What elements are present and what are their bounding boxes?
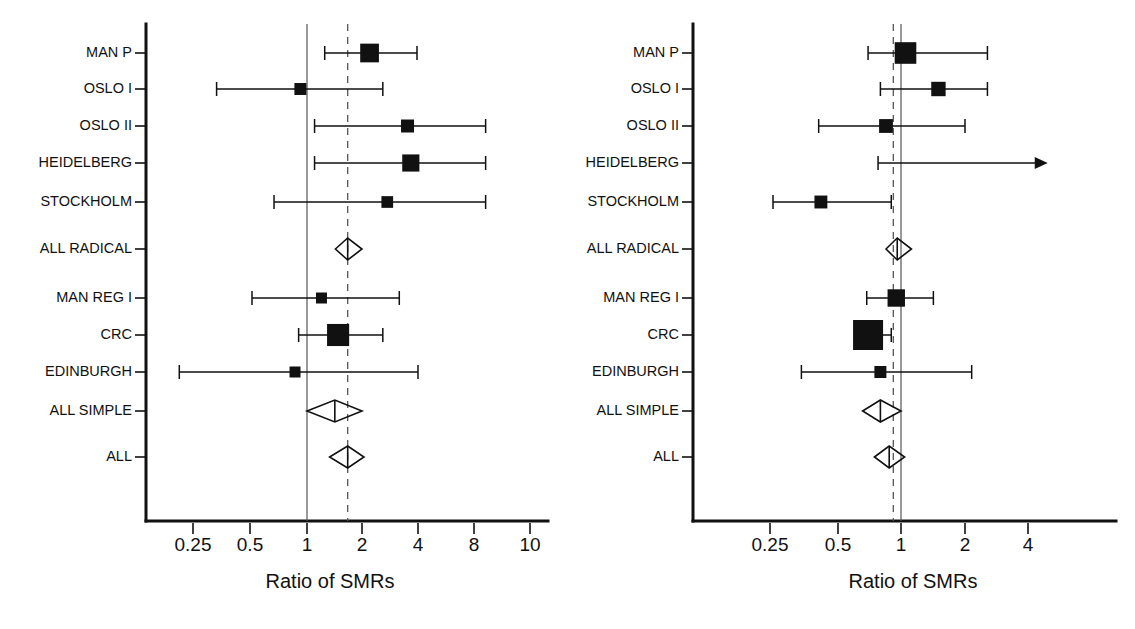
x-axis-tick-label: 10 [519, 534, 540, 555]
arrow-right-icon [1035, 157, 1048, 169]
x-axis-tick-label: 0.5 [825, 534, 851, 555]
effect-estimate-marker [316, 293, 327, 304]
effect-estimate-marker [874, 366, 886, 378]
study-label: ALL SIMPLE [597, 402, 680, 418]
study-label: EDINBURGH [592, 363, 679, 379]
effect-estimate-marker [327, 324, 349, 346]
effect-estimate-marker [853, 320, 883, 350]
forest-panel-left: 0.250.5124810Ratio of SMRsMAN POSLO IOSL… [0, 0, 567, 629]
effect-estimate-marker [294, 83, 306, 95]
study-label: STOCKHOLM [587, 193, 679, 209]
effect-estimate-marker [290, 367, 301, 378]
study-label: OSLO II [627, 117, 679, 133]
x-axis-tick-label: 2 [357, 534, 368, 555]
effect-estimate-marker [814, 196, 827, 209]
pooled-diamond [330, 446, 364, 468]
study-label: ALL SIMPLE [50, 402, 133, 418]
x-axis-tick-label: 0.25 [175, 534, 212, 555]
effect-estimate-marker [381, 196, 393, 208]
effect-estimate-marker [895, 42, 917, 64]
forest-plot-right-svg: 0.250.5124Ratio of SMRsMAN POSLO IOSLO I… [568, 0, 1135, 629]
study-label: ALL [106, 448, 132, 464]
effect-estimate-marker [931, 82, 945, 96]
x-axis-tick-label: 4 [1023, 534, 1034, 555]
study-label: ALL RADICAL [40, 240, 132, 256]
effect-estimate-marker [402, 154, 419, 171]
forest-panel-right: 0.250.5124Ratio of SMRsMAN POSLO IOSLO I… [568, 0, 1135, 629]
study-label: ALL [653, 448, 679, 464]
effect-estimate-marker [360, 44, 379, 63]
x-axis-tick-label: 4 [413, 534, 424, 555]
effect-estimate-marker [888, 289, 905, 306]
study-label: OSLO II [80, 117, 132, 133]
study-label: HEIDELBERG [586, 154, 679, 170]
study-label: OSLO I [631, 80, 679, 96]
study-label: HEIDELBERG [39, 154, 132, 170]
x-axis-tick-label: 1 [302, 534, 313, 555]
effect-estimate-marker [879, 119, 893, 133]
forest-plot-figure: 0.250.5124810Ratio of SMRsMAN POSLO IOSL… [0, 0, 1135, 629]
study-label: MAN P [633, 44, 679, 60]
x-axis-title: Ratio of SMRs [266, 570, 395, 592]
study-label: OSLO I [84, 80, 132, 96]
study-label: MAN REG I [56, 289, 132, 305]
effect-estimate-marker [401, 120, 414, 133]
x-axis-tick-label: 8 [469, 534, 480, 555]
study-label: ALL RADICAL [587, 240, 679, 256]
study-label: MAN REG I [603, 289, 679, 305]
forest-plot-left-svg: 0.250.5124810Ratio of SMRsMAN POSLO IOSL… [0, 0, 567, 629]
study-label: MAN P [86, 44, 132, 60]
pooled-diamond [863, 400, 901, 422]
study-label: CRC [101, 326, 132, 342]
pooled-diamond [335, 238, 362, 260]
x-axis-tick-label: 1 [896, 534, 907, 555]
study-label: EDINBURGH [45, 363, 132, 379]
pooled-diamond [886, 238, 911, 260]
x-axis-tick-label: 0.5 [237, 534, 263, 555]
x-axis-tick-label: 2 [960, 534, 971, 555]
study-label: CRC [648, 326, 679, 342]
x-axis-tick-label: 0.25 [752, 534, 789, 555]
study-label: STOCKHOLM [40, 193, 132, 209]
x-axis-title: Ratio of SMRs [849, 570, 978, 592]
